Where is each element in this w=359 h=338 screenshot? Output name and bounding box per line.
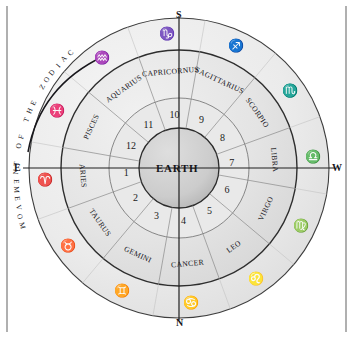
zodiac-name-aquarius: AQUARIUS [105, 74, 144, 104]
zodiac-glyph-virgo-icon: ♍ [293, 219, 309, 232]
zodiac-glyph-cancer-icon: ♋ [183, 296, 199, 309]
zodiac-name-taurus: TAURUS [88, 208, 113, 238]
zodiac-glyph-taurus-icon: ♉ [60, 239, 76, 252]
house-number: 2 [133, 193, 138, 203]
house-number: 7 [229, 158, 234, 168]
zodiac-name-virgo: VIRGO [257, 195, 275, 222]
zodiac-glyph-gemini-icon: ♊ [114, 284, 130, 297]
house-number: 10 [169, 110, 179, 120]
zodiac-name-libra: LIBRA [270, 147, 280, 172]
house-number: 12 [126, 141, 136, 151]
house-number: 1 [124, 168, 129, 178]
house-number: 3 [154, 211, 159, 221]
figure-page: S N E W EARTH MOVEMENTOFTHEZODIAC 123456… [0, 0, 359, 338]
zodiac-glyph-capricornus-icon: ♑ [159, 27, 175, 40]
zodiac-glyph-pisces-icon: ♓ [49, 104, 65, 117]
zodiac-name-sagittarius: SAGITTARIUS [194, 66, 245, 95]
zodiac-glyph-aquarius-icon: ♒ [94, 51, 110, 64]
zodiac-glyph-aries-icon: ♈ [37, 173, 53, 186]
zodiac-glyph-sagittarius-icon: ♐ [228, 39, 244, 52]
zodiac-glyph-libra-icon: ♎ [305, 150, 321, 163]
house-number: 4 [181, 216, 186, 226]
zodiac-name-capricornus: CAPRICORNUS [142, 66, 199, 79]
zodiac-name-aries: ARIES [78, 164, 88, 188]
house-number: 8 [220, 133, 225, 143]
house-number: 11 [144, 120, 154, 130]
zodiac-name-cancer: CANCER [171, 258, 204, 268]
wheel-label-overlay: 123456789101112♈♉♊♋♌♍♎♏♐♑♒♓ARIESTAURUSGE… [0, 0, 359, 338]
zodiac-name-pisces: PISCES [83, 113, 101, 141]
house-number: 6 [225, 185, 230, 195]
zodiac-glyph-leo-icon: ♌ [248, 272, 264, 285]
house-number: 5 [207, 206, 212, 216]
zodiac-name-scorpio: SCORPIO [244, 96, 270, 129]
house-number: 9 [199, 115, 204, 125]
zodiac-name-leo: LEO [225, 239, 242, 254]
zodiac-name-gemini: GEMINI [123, 245, 153, 264]
zodiac-glyph-scorpio-icon: ♏ [282, 84, 298, 97]
